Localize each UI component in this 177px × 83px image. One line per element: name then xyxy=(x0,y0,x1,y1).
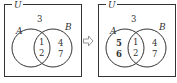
venn-diagram-after: U A B 3 5 6 1 2 4 7 xyxy=(99,0,176,77)
set-a-label: A xyxy=(15,26,23,36)
venn-diagram-before: U A B 3 1 2 4 7 xyxy=(5,0,82,77)
intersection-value: 2 xyxy=(39,48,44,58)
b-only-value: 7 xyxy=(152,49,157,59)
universe-label: U xyxy=(108,0,116,10)
arrow-icon xyxy=(84,36,94,46)
b-only-value: 7 xyxy=(58,49,63,59)
intersection-value: 1 xyxy=(133,37,138,47)
set-b-label: B xyxy=(64,22,72,32)
a-only-value: 5 xyxy=(116,38,122,48)
intersection-value: 1 xyxy=(39,37,44,47)
a-only-value: 6 xyxy=(116,49,122,59)
intersection-value: 2 xyxy=(133,48,138,58)
venn-diagram-figure: U A B 3 1 2 4 7 U A B 3 5 6 1 2 4 7 xyxy=(0,0,177,83)
set-a-label: A xyxy=(109,26,117,36)
b-only-value: 4 xyxy=(58,38,63,48)
b-only-value: 4 xyxy=(152,38,157,48)
set-b-label: B xyxy=(158,22,166,32)
universe-label: U xyxy=(14,0,22,10)
outside-value: 3 xyxy=(131,14,136,24)
outside-value: 3 xyxy=(37,14,42,24)
